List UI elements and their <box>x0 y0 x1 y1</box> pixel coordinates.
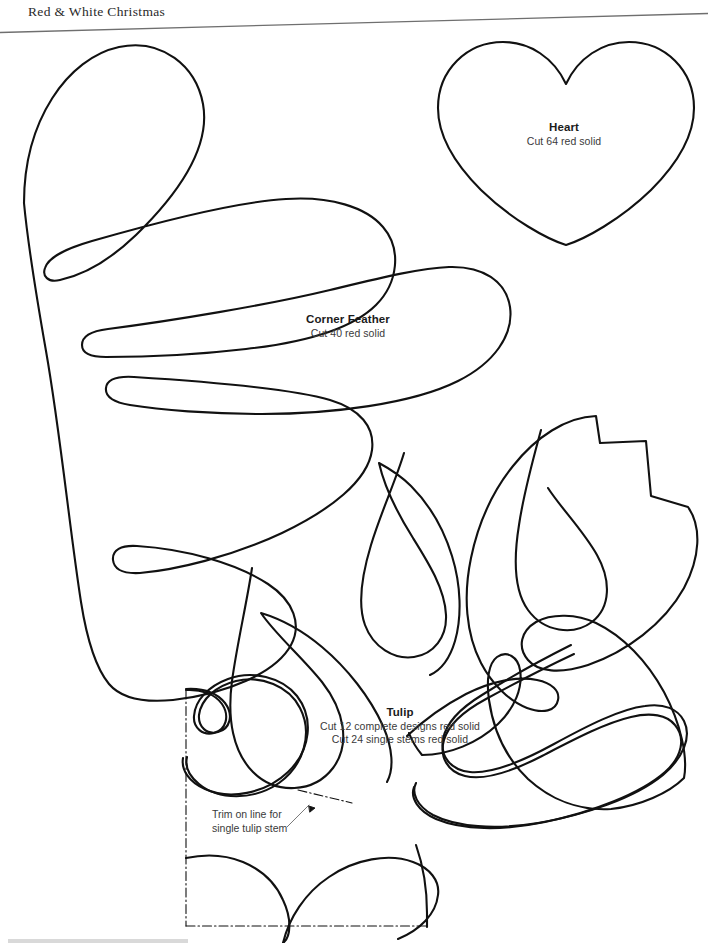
tulip-bottom-right-stem-shape <box>416 845 427 927</box>
bottom-cropped-text-artifact <box>8 939 188 943</box>
tulip-left-leaf-shape <box>361 453 459 675</box>
trim-line-diagonal <box>298 790 352 803</box>
heart-label-line-1: Cut 64 red solid <box>478 135 650 148</box>
trim-callout-line-2: single tulip stem <box>212 822 308 836</box>
tulip-bottom-left-leaf-shape <box>186 856 289 943</box>
corner-feather-shape <box>24 45 511 700</box>
tulip-bottom-centre-leaf-shape <box>283 858 438 943</box>
tulip-bloom-outline <box>521 417 698 670</box>
trim-callout-text: Trim on line for single tulip stem <box>212 808 308 836</box>
trim-callout-arrow <box>309 806 315 812</box>
corner-feather-label-title: Corner Feather <box>252 312 444 327</box>
tulip-label-line-2: Cut 24 single stems red solid <box>285 733 515 746</box>
trim-callout-line-1: Trim on line for <box>212 808 308 822</box>
tulip-teardrop-leaf-outline <box>230 568 391 788</box>
corner-feather-label-line-1: Cut 40 red solid <box>252 327 444 340</box>
heart-label: Heart Cut 64 red solid <box>478 120 650 148</box>
running-head: Red & White Christmas <box>28 4 165 20</box>
tulip-right-long-leaf-shape <box>516 430 607 630</box>
heart-label-title: Heart <box>478 120 650 135</box>
tulip-label-title: Tulip <box>285 705 515 720</box>
pattern-sheet-page: Red & White Christmas Heart Cut 64 red s… <box>0 0 708 943</box>
tulip-label-line-1: Cut 12 complete designs red solid <box>285 720 515 733</box>
tulip-label: Tulip Cut 12 complete designs red solid … <box>285 705 515 747</box>
corner-feather-label: Corner Feather Cut 40 red solid <box>252 312 444 340</box>
